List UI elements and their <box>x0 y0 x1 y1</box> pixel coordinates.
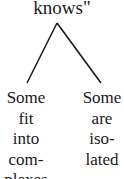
right-leaf-line: Some <box>80 88 124 109</box>
left-branch-line <box>27 23 57 83</box>
left-leaf-line: into <box>0 129 52 150</box>
right-branch-line <box>57 23 101 83</box>
right-leaf-node: Some are iso- lated <box>80 88 124 170</box>
right-leaf-line: iso- <box>80 129 124 150</box>
right-leaf-line: lated <box>80 150 124 171</box>
left-leaf-line: fit <box>0 109 52 130</box>
left-leaf-line: com- <box>0 150 52 171</box>
right-leaf-line: are <box>80 109 124 130</box>
left-leaf-line: plexes <box>0 170 52 179</box>
left-leaf-line: Some <box>0 88 52 109</box>
left-leaf-node: Some fit into com- plexes <box>0 88 52 179</box>
